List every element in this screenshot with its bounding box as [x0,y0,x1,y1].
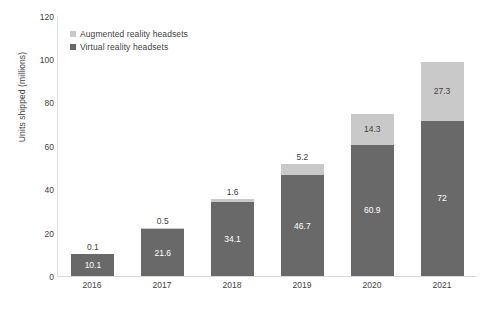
bar-stack: 5.2 46.7 [281,164,324,276]
bar-segment-ar[interactable]: 5.2 [281,164,324,175]
legend-swatch-icon [70,44,76,50]
bars-layer: 0.1 10.1 0.5 21.6 [58,17,477,276]
legend-swatch-icon [70,31,76,37]
y-tick-label-60: 60 [28,142,54,152]
bar-value-label-vr: 72 [437,193,446,203]
bar-value-label-vr: 10.1 [85,260,102,270]
x-tick-label-2017: 2017 [127,280,197,290]
bar-segment-vr[interactable]: 46.7 [281,175,324,276]
y-tick-label-80: 80 [28,98,54,108]
bar-segment-ar[interactable]: 14.3 [351,114,394,145]
chart-legend: Augmented reality headsets Virtual reali… [70,29,188,52]
y-tick-label-0: 0 [28,272,54,282]
bar-segment-vr[interactable]: 34.1 [211,202,254,276]
legend-item-virtual-reality-headsets[interactable]: Virtual reality headsets [70,42,188,52]
bar-value-label-ar: 27.3 [434,86,451,96]
legend-label: Augmented reality headsets [80,29,188,39]
bar-value-label-vr: 21.6 [154,248,171,258]
bar-value-label-ar: 1.6 [227,187,239,197]
bar-segment-vr[interactable]: 72 [421,121,464,276]
bar-group-2017: 0.5 21.6 [128,17,198,276]
chart-container: Units shipped (millions) 120 100 80 60 4… [0,0,488,310]
legend-item-augmented-reality-headsets[interactable]: Augmented reality headsets [70,29,188,39]
y-tick-label-120: 120 [28,12,54,22]
bar-segment-vr[interactable]: 10.1 [71,254,114,276]
bar-value-label-ar: 14.3 [364,124,381,134]
bar-value-label-vr: 34.1 [224,234,241,244]
y-tick-label-100: 100 [28,55,54,65]
x-tick-label-2020: 2020 [337,280,407,290]
bar-value-label-ar: 5.2 [296,152,308,162]
bar-group-2020: 14.3 60.9 [337,17,407,276]
bar-value-label-vr: 46.7 [294,221,311,231]
y-axis-title: Units shipped (millions) [17,27,27,167]
bar-value-label-ar: 0.5 [157,216,169,226]
x-tick-label-2019: 2019 [267,280,337,290]
x-axis-labels: 2016 2017 2018 2019 2020 2021 [57,280,477,290]
bar-stack: 1.6 34.1 [211,199,254,276]
bar-stack: 27.3 72 [421,62,464,276]
bar-value-label-ar: 0.1 [87,242,99,252]
plot-area: 0.1 10.1 0.5 21.6 [57,17,477,277]
bar-group-2019: 5.2 46.7 [267,17,337,276]
x-tick-label-2018: 2018 [197,280,267,290]
y-tick-label-20: 20 [28,229,54,239]
bar-group-2016: 0.1 10.1 [58,17,128,276]
y-tick-label-40: 40 [28,185,54,195]
legend-label: Virtual reality headsets [80,42,168,52]
bar-group-2018: 1.6 34.1 [198,17,268,276]
bar-group-2021: 27.3 72 [407,17,477,276]
x-tick-label-2021: 2021 [407,280,477,290]
bar-stack: 0.5 21.6 [141,228,184,276]
x-tick-label-2016: 2016 [57,280,127,290]
bar-stack: 0.1 10.1 [71,254,114,276]
bar-segment-vr[interactable]: 60.9 [351,145,394,276]
bar-segment-vr[interactable]: 21.6 [141,229,184,276]
bar-value-label-vr: 60.9 [364,205,381,215]
bar-stack: 14.3 60.9 [351,114,394,276]
bar-segment-ar[interactable]: 27.3 [421,62,464,121]
